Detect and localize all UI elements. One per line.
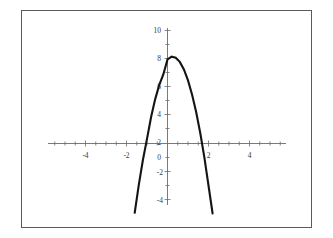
y-axis-tick-labels: 10 8 6 4 2 0 -2 -4: [154, 26, 164, 205]
x-axis-tick-labels: -4 -2 2 4: [82, 151, 251, 160]
y-tick-label-0: 0: [157, 153, 161, 162]
x-tick-label-2: 2: [207, 151, 211, 160]
y-tick-label-neg4: -4: [157, 196, 163, 205]
screenshot-root: 10 8 6 4 2 0 -2 -4 -4 -2 2 4: [0, 0, 333, 238]
plot-canvas: 10 8 6 4 2 0 -2 -4 -4 -2 2 4: [0, 0, 333, 238]
parabola-curve: [135, 57, 213, 214]
x-tick-label-4: 4: [248, 151, 252, 160]
x-tick-label-neg4: -4: [82, 151, 88, 160]
x-tick-label-neg2: -2: [123, 151, 129, 160]
y-tick-label-8: 8: [157, 54, 161, 63]
y-tick-label-10: 10: [154, 26, 162, 35]
axes-group: [48, 28, 286, 205]
y-tick-label-neg2: -2: [157, 168, 163, 177]
y-tick-label-2: 2: [157, 138, 161, 147]
y-tick-label-4: 4: [157, 110, 161, 119]
